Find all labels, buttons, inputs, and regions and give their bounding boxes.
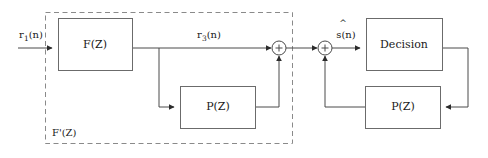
block-feedback-filter-right-label: P(Z): [391, 100, 415, 113]
block-feedback-filter-left-label: P(Z): [206, 100, 230, 113]
wire-pz-left-to-adder1: [255, 56, 279, 107]
block-decision-label: Decision: [380, 38, 428, 51]
wire-tap-to-pz-left: [159, 48, 174, 107]
adder-2[interactable]: [318, 41, 332, 55]
group-label-prefix: F: [52, 127, 59, 138]
signal-label-estimate: s(n): [336, 29, 355, 40]
wire-pz-right-to-adder2: [325, 56, 365, 107]
wire-decision-output: [442, 48, 468, 107]
group-box-label: F'(Z): [52, 127, 77, 138]
group-label-suffix: (Z): [62, 127, 77, 138]
block-diagram-canvas: F(Z) P(Z) Decision P(Z) r1(n) r3(n) ^ s(…: [0, 0, 488, 158]
signal-label-mid: r3(n): [197, 29, 221, 43]
signal-estimate-suffix: (n): [341, 29, 355, 40]
block-feedforward-filter-label: F(Z): [83, 38, 107, 51]
signal-mid-suffix: (n): [207, 29, 221, 40]
adder-1[interactable]: [272, 41, 286, 55]
signal-label-input: r1(n): [19, 29, 43, 43]
diagram-svg: F(Z) P(Z) Decision P(Z) r1(n) r3(n) ^ s(…: [0, 0, 488, 158]
signal-input-suffix: (n): [29, 29, 43, 40]
signal-estimate-hat: ^: [339, 18, 347, 28]
